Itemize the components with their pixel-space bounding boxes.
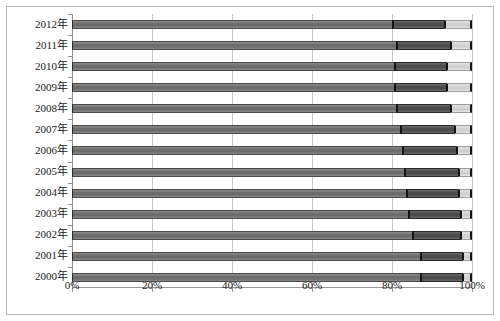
bar-segment-series-2[interactable]	[412, 231, 460, 240]
y-axis-tick	[68, 183, 72, 184]
bar-segment-series-1[interactable]	[72, 146, 402, 155]
bar-segment-series-1[interactable]	[72, 189, 406, 198]
bar-segment-series-1[interactable]	[72, 273, 420, 282]
bar-segment-series-1[interactable]	[72, 104, 396, 113]
stacked-bar[interactable]	[72, 168, 472, 177]
y-axis-tick	[68, 98, 72, 99]
x-axis-label: 100%	[459, 280, 485, 291]
y-axis-label: 2009年	[6, 82, 68, 93]
bar-segment-series-2[interactable]	[406, 189, 458, 198]
bar-segment-series-3[interactable]	[450, 104, 472, 113]
y-axis-tick	[68, 56, 72, 57]
bar-segment-series-1[interactable]	[72, 168, 404, 177]
y-axis-tick	[68, 204, 72, 205]
stacked-bar[interactable]	[72, 125, 472, 134]
y-axis-label: 2008年	[6, 103, 68, 114]
y-axis-tick	[68, 119, 72, 120]
bar-segment-series-1[interactable]	[72, 231, 412, 240]
y-axis-label: 2010年	[6, 61, 68, 72]
x-axis-label: 80%	[382, 280, 402, 291]
bar-row[interactable]	[72, 14, 472, 35]
bar-segment-series-2[interactable]	[394, 62, 446, 71]
stacked-bar[interactable]	[72, 273, 472, 282]
bar-row[interactable]	[72, 267, 472, 288]
y-axis-tick	[68, 246, 72, 247]
y-axis-label: 2004年	[6, 187, 68, 198]
bar-segment-series-2[interactable]	[404, 168, 458, 177]
bar-segment-series-2[interactable]	[396, 41, 450, 50]
bar-segment-series-2[interactable]	[392, 20, 444, 29]
bar-segment-series-2[interactable]	[420, 273, 462, 282]
y-axis-tick	[68, 14, 72, 15]
bar-row[interactable]	[72, 246, 472, 267]
bar-segment-series-1[interactable]	[72, 125, 400, 134]
stacked-bar[interactable]	[72, 146, 472, 155]
bar-segment-series-3[interactable]	[446, 83, 472, 92]
y-axis-label: 2001年	[6, 250, 68, 261]
bar-row[interactable]	[72, 77, 472, 98]
bar-row[interactable]	[72, 183, 472, 204]
chart-container: 0%20%40%60%80%100%2012年2011年2010年2009年20…	[0, 0, 500, 321]
y-axis-tick	[68, 267, 72, 268]
stacked-bar[interactable]	[72, 62, 472, 71]
y-axis-tick	[68, 140, 72, 141]
bar-segment-series-3[interactable]	[446, 62, 472, 71]
bar-row[interactable]	[72, 35, 472, 56]
bar-segment-series-3[interactable]	[462, 252, 472, 261]
bar-segment-series-2[interactable]	[408, 210, 460, 219]
stacked-bar[interactable]	[72, 210, 472, 219]
stacked-bar[interactable]	[72, 104, 472, 113]
bar-segment-series-3[interactable]	[460, 231, 472, 240]
bar-row[interactable]	[72, 140, 472, 161]
bar-segment-series-1[interactable]	[72, 62, 394, 71]
y-axis-label: 2003年	[6, 208, 68, 219]
bar-segment-series-3[interactable]	[444, 20, 472, 29]
bar-segment-series-2[interactable]	[402, 146, 456, 155]
y-axis-tick	[68, 162, 72, 163]
stacked-bar[interactable]	[72, 41, 472, 50]
x-axis-label: 60%	[302, 280, 322, 291]
gridline-vertical	[472, 14, 473, 288]
bar-segment-series-2[interactable]	[394, 83, 446, 92]
stacked-bar[interactable]	[72, 189, 472, 198]
y-axis-label: 2007年	[6, 124, 68, 135]
y-axis-label: 2011年	[6, 40, 68, 51]
stacked-bar[interactable]	[72, 252, 472, 261]
bar-row[interactable]	[72, 56, 472, 77]
stacked-bar[interactable]	[72, 20, 472, 29]
bar-segment-series-1[interactable]	[72, 210, 408, 219]
bar-row[interactable]	[72, 162, 472, 183]
bar-segment-series-3[interactable]	[458, 189, 472, 198]
bar-segment-series-1[interactable]	[72, 83, 394, 92]
stacked-bar[interactable]	[72, 83, 472, 92]
bar-segment-series-3[interactable]	[458, 168, 472, 177]
y-axis-tick	[68, 225, 72, 226]
stacked-bar[interactable]	[72, 231, 472, 240]
bar-segment-series-3[interactable]	[454, 125, 472, 134]
bar-segment-series-1[interactable]	[72, 41, 396, 50]
bar-segment-series-2[interactable]	[400, 125, 454, 134]
y-axis-label: 2002年	[6, 229, 68, 240]
y-axis-label: 2012年	[6, 19, 68, 30]
bar-segment-series-2[interactable]	[420, 252, 462, 261]
bar-segment-series-2[interactable]	[396, 104, 450, 113]
bar-row[interactable]	[72, 98, 472, 119]
bar-segment-series-1[interactable]	[72, 20, 392, 29]
bar-row[interactable]	[72, 119, 472, 140]
bar-segment-series-1[interactable]	[72, 252, 420, 261]
y-axis-tick	[68, 35, 72, 36]
x-axis-label: 40%	[222, 280, 242, 291]
bar-segment-series-3[interactable]	[460, 210, 472, 219]
bar-row[interactable]	[72, 225, 472, 246]
plot-area	[72, 14, 472, 288]
y-axis-label: 2005年	[6, 166, 68, 177]
y-axis-label: 2006年	[6, 145, 68, 156]
bar-segment-series-3[interactable]	[456, 146, 472, 155]
x-axis-label: 20%	[142, 280, 162, 291]
y-axis-tick	[68, 77, 72, 78]
bar-row[interactable]	[72, 204, 472, 225]
bar-segment-series-3[interactable]	[450, 41, 472, 50]
y-axis-label: 2000年	[6, 271, 68, 282]
